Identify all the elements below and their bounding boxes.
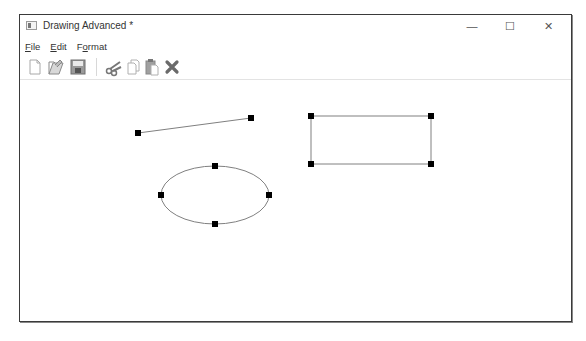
resize-handle[interactable]	[135, 130, 141, 136]
app-window: Drawing Advanced * — ☐ ✕ File Edit Forma…	[19, 14, 572, 322]
resize-handle[interactable]	[308, 161, 314, 167]
rectangle-shape[interactable]	[311, 116, 431, 164]
resize-handle[interactable]	[266, 192, 272, 198]
resize-handle[interactable]	[308, 113, 314, 119]
resize-handle[interactable]	[428, 113, 434, 119]
shapes-layer	[1, 1, 586, 341]
resize-handle[interactable]	[428, 161, 434, 167]
resize-handle[interactable]	[248, 115, 254, 121]
line-shape[interactable]	[138, 118, 251, 133]
ellipse-shape[interactable]	[161, 166, 269, 224]
drawing-canvas[interactable]	[20, 80, 571, 321]
resize-handle[interactable]	[212, 221, 218, 227]
resize-handle[interactable]	[158, 192, 164, 198]
resize-handle[interactable]	[212, 163, 218, 169]
